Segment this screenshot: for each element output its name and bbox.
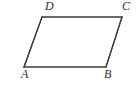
vertex-label-b: B — [104, 68, 111, 80]
edge-da — [24, 17, 42, 67]
parallelogram-diagram — [0, 0, 139, 99]
vertex-label-c: C — [122, 0, 130, 12]
vertex-label-a: A — [21, 68, 28, 80]
edge-bc — [106, 17, 122, 67]
geometry-figure-canvas: D C A B — [0, 0, 139, 99]
vertex-label-d: D — [45, 0, 54, 12]
